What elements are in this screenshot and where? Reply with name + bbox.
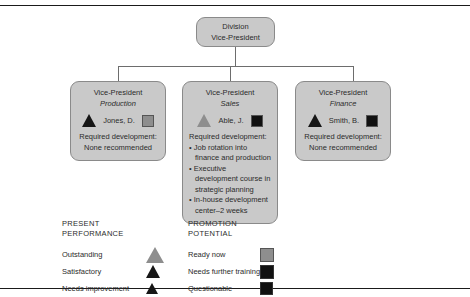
performance-triangle-icon bbox=[197, 114, 211, 127]
node-vice-president-production[interactable]: Vice-President Production Jones, D. Requ… bbox=[70, 81, 166, 161]
required-development-text: None recommended bbox=[302, 143, 384, 154]
development-bullet-item: Job rotation into finance and production bbox=[189, 143, 271, 164]
vp-title-production: Vice-President Production bbox=[77, 88, 159, 109]
triangle-medium-icon bbox=[146, 265, 160, 278]
legend-rows: Outstanding Satisfactory Needs improveme… bbox=[62, 246, 182, 297]
vp-subtitle-line: Finance bbox=[302, 99, 384, 110]
required-development-label: Required development: bbox=[302, 132, 384, 143]
vp-title-line: Vice-President bbox=[302, 88, 384, 99]
legend-label: Questionable bbox=[188, 284, 260, 293]
legend-mark bbox=[260, 265, 282, 279]
legend-row-questionable: Questionable bbox=[188, 280, 308, 297]
legend-heading-line1: PROMOTION bbox=[188, 219, 308, 229]
required-development-label: Required development: bbox=[189, 132, 271, 143]
legend-label: Satisfactory bbox=[62, 267, 146, 276]
vp-subtitle-line: Production bbox=[77, 99, 159, 110]
connector-horizontal-bus bbox=[118, 66, 353, 67]
legend-mark bbox=[146, 283, 168, 294]
legend-heading-line2: POTENTIAL bbox=[188, 229, 308, 239]
vp-title-line: Vice-President bbox=[77, 88, 159, 99]
root-title-line2: Vice-President bbox=[197, 33, 274, 44]
legend-row-satisfactory: Satisfactory bbox=[62, 263, 182, 280]
legend-label: Outstanding bbox=[62, 250, 146, 259]
legend-promotion-potential: PROMOTION POTENTIAL Ready now Needs furt… bbox=[188, 219, 308, 297]
connector-drop-sales bbox=[230, 66, 231, 81]
vp-subtitle-line: Sales bbox=[189, 99, 271, 110]
person-row-finance: Smith, B. bbox=[302, 114, 384, 127]
top-divider-rule bbox=[0, 5, 470, 6]
person-name-finance: Smith, B. bbox=[329, 116, 359, 125]
required-development-production: Required development: None recommended bbox=[77, 132, 159, 153]
legend-row-outstanding: Outstanding bbox=[62, 246, 182, 263]
legend-mark bbox=[146, 265, 168, 278]
legend-label: Needs improvement bbox=[62, 284, 146, 293]
development-bullet-item: Executive development course in strategi… bbox=[189, 164, 271, 196]
required-development-finance: Required development: None recommended bbox=[302, 132, 384, 153]
person-name-production: Jones, D. bbox=[103, 116, 135, 125]
legend-mark bbox=[260, 248, 282, 262]
person-name-sales: Able, J. bbox=[218, 116, 243, 125]
legend-heading: PROMOTION POTENTIAL bbox=[188, 219, 308, 239]
legend-label: Needs further training bbox=[188, 267, 260, 276]
performance-triangle-icon bbox=[82, 114, 96, 127]
connector-drop-production bbox=[118, 66, 119, 81]
legend-heading: PRESENT PERFORMANCE bbox=[62, 219, 182, 239]
triangle-large-icon bbox=[146, 247, 164, 263]
org-chart-canvas: Division Vice-President Vice-President P… bbox=[0, 0, 470, 297]
square-large-icon bbox=[260, 248, 274, 262]
legend-heading-line1: PRESENT bbox=[62, 219, 182, 229]
node-vice-president-finance[interactable]: Vice-President Finance Smith, B. Require… bbox=[295, 81, 391, 161]
triangle-small-icon bbox=[146, 283, 158, 294]
legend-label: Ready now bbox=[188, 250, 260, 259]
potential-square-icon bbox=[251, 115, 263, 127]
required-development-sales: Required development: Job rotation into … bbox=[189, 132, 271, 216]
square-small-icon bbox=[260, 282, 273, 295]
node-division-vice-president[interactable]: Division Vice-President bbox=[196, 17, 275, 47]
potential-square-icon bbox=[142, 115, 154, 127]
legend-mark bbox=[146, 247, 168, 263]
required-development-text: None recommended bbox=[77, 143, 159, 154]
connector-root-drop bbox=[235, 47, 236, 66]
node-vice-president-sales[interactable]: Vice-President Sales Able, J. Required d… bbox=[182, 81, 278, 224]
legend-row-needs-improvement: Needs improvement bbox=[62, 280, 182, 297]
root-title-line1: Division bbox=[197, 22, 274, 33]
legend-present-performance: PRESENT PERFORMANCE Outstanding Satisfac… bbox=[62, 219, 182, 297]
person-row-production: Jones, D. bbox=[77, 114, 159, 127]
square-medium-icon bbox=[260, 265, 274, 279]
connector-drop-finance bbox=[353, 66, 354, 81]
legend-mark bbox=[260, 282, 282, 295]
legend-rows: Ready now Needs further training Questio… bbox=[188, 246, 308, 297]
legend-row-ready-now: Ready now bbox=[188, 246, 308, 263]
legend-row-needs-further-training: Needs further training bbox=[188, 263, 308, 280]
vp-title-sales: Vice-President Sales bbox=[189, 88, 271, 109]
vp-title-line: Vice-President bbox=[189, 88, 271, 99]
legend-heading-line2: PERFORMANCE bbox=[62, 229, 182, 239]
vp-title-finance: Vice-President Finance bbox=[302, 88, 384, 109]
performance-triangle-icon bbox=[308, 114, 322, 127]
person-row-sales: Able, J. bbox=[189, 114, 271, 127]
development-bullet-list: Job rotation into finance and production… bbox=[189, 143, 271, 217]
potential-square-icon bbox=[366, 115, 378, 127]
development-bullet-item: In-house development center–2 weeks bbox=[189, 195, 271, 216]
required-development-label: Required development: bbox=[77, 132, 159, 143]
